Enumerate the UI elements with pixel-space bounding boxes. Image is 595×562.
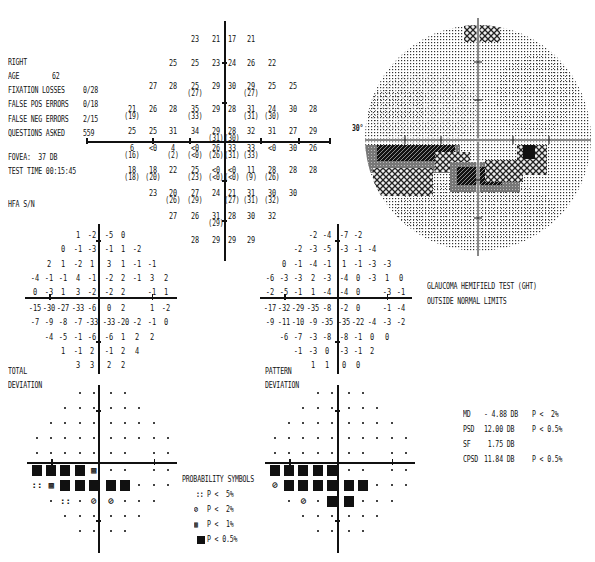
threshold-main: 26 [191,211,199,221]
normal-point [50,500,52,502]
threshold-repeat: (33) [243,152,259,160]
threshold-value: 29 [208,236,224,244]
threshold-repeat: (2) [165,152,181,160]
axis-tick [222,102,227,104]
p-less-0-5-symbol [327,496,337,507]
axis-tick [152,138,154,144]
threshold-value: 4(2) [165,144,181,160]
deviation-value: -35 [319,318,335,327]
normal-point [362,515,364,517]
threshold-value: 26 [145,105,161,113]
normal-point [362,437,364,439]
normal-point [391,500,393,502]
axis-tick [154,459,156,465]
threshold-value: 28 [224,105,240,113]
threshold-main: <0 [149,143,157,153]
axis-tick [49,294,51,300]
normal-point [362,392,364,394]
normal-point [391,422,393,424]
threshold-main: 30 [228,81,236,91]
axis-tick [260,138,262,144]
deviation-value: -1 [143,260,159,269]
p-less-5-symbol: :: [58,496,72,506]
normal-point [391,437,393,439]
normal-point [331,530,333,532]
threshold-main: 25 [128,126,136,136]
normal-point [317,407,319,409]
threshold-main: 28 [169,81,177,91]
threshold-main: 25 [149,126,157,136]
normal-point [93,452,95,454]
threshold-value: 28 [187,236,203,244]
p-less-0-5-symbol [327,480,337,491]
legend-title: PROBABILITY SYMBOLS [182,475,254,484]
axis-tick [152,294,154,300]
threshold-main: 28 [309,104,317,114]
deviation-value: 0 [378,333,394,342]
threshold-value: 25 [187,59,203,67]
normal-point [348,530,350,532]
threshold-value: 31(31) [243,189,259,205]
normal-point [348,452,350,454]
threshold-value: 24(30) [264,105,280,121]
normal-point [153,452,155,454]
p-less-0-5-symbol [32,465,42,476]
threshold-value: 25 [124,127,140,135]
threshold-repeat: (27) [224,197,240,205]
threshold-main: 27 [289,126,297,136]
deviation-value: -4 [364,245,380,254]
threshold-value: 25 [264,82,280,90]
normal-point [391,469,393,471]
p-less-0-5-symbol [344,480,354,491]
p-less-0-5-symbol [313,465,323,476]
normal-point [110,452,112,454]
threshold-value: 30 [285,105,301,113]
deviation-value: 0 [350,361,366,370]
normal-point [288,422,290,424]
threshold-value: 26 [243,59,259,67]
threshold-main: 26 [309,143,317,153]
threshold-main: 31 [169,126,177,136]
deviation-value: 2 [115,304,131,313]
threshold-repeat: (20) [145,174,161,182]
threshold-main: 28 [309,165,317,175]
p-less-2-symbol: ⊘ [104,496,118,506]
normal-point [302,452,304,454]
pattern-deviation-label-1: PATTERN [265,367,292,376]
total-deviation-label-1: TOTAL [8,367,27,376]
eye-label: RIGHT [8,58,27,67]
threshold-value: 22 [264,59,280,67]
normal-point [362,530,364,532]
threshold-main: 30 [289,104,297,114]
normal-point [362,500,364,502]
axis-tick [96,341,101,343]
normal-point [167,469,169,471]
deviation-value: -2 [129,245,145,254]
normal-point [167,452,169,454]
threshold-value: 21 [243,35,259,43]
normal-point [124,515,126,517]
deviation-value: -4 [319,288,335,297]
threshold-main: 22 [169,165,177,175]
p-less-0-5-symbol [120,480,130,491]
normal-point [317,437,319,439]
normal-point [110,422,112,424]
threshold-main: 25 [191,58,199,68]
normal-point [348,515,350,517]
threshold-repeat: (16) [124,152,140,160]
legend-symbol-icon: :: [196,490,204,499]
threshold-value: 28 [305,105,321,113]
normal-point [124,392,126,394]
threshold-value: 29 [305,127,321,135]
threshold-main: 25 [169,58,177,68]
axis-tick [51,459,53,465]
threshold-value: 28 [165,105,181,113]
threshold-value: 28 [165,82,181,90]
threshold-main: 28 [289,165,297,175]
index-value: 11.84 DB [484,455,514,464]
normal-point [110,437,112,439]
p-less-0-5-symbol [46,465,56,476]
threshold-value: 21(27) [224,189,240,205]
normal-point [348,469,350,471]
normal-point [138,515,140,517]
